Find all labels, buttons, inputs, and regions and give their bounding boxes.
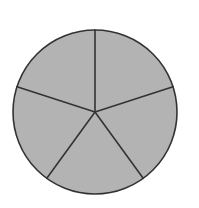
- pie-diagram: [0, 0, 199, 208]
